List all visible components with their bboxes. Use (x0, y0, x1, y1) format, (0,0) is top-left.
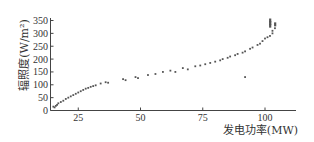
data-point (262, 40, 264, 42)
data-point (90, 86, 92, 88)
data-point (62, 100, 64, 102)
data-point (77, 92, 79, 94)
data-point (264, 38, 266, 40)
data-point (244, 76, 246, 78)
data-point (85, 88, 87, 90)
data-point (80, 90, 82, 92)
data-point (82, 89, 84, 91)
y-axis-label: 辐照度(W/m²) (8, 18, 38, 92)
data-point (227, 57, 229, 59)
x-tick-label: 25 (73, 112, 83, 123)
data-point (214, 61, 216, 63)
data-point (174, 71, 176, 73)
data-point (244, 50, 246, 52)
data-point (269, 19, 271, 23)
data-point (105, 81, 107, 83)
y-tick-label: 0 (43, 105, 48, 116)
data-point (274, 27, 276, 29)
data-point (60, 101, 62, 103)
data-point (199, 65, 201, 67)
data-point (107, 82, 109, 84)
data-point (234, 54, 236, 56)
data-point (92, 85, 94, 87)
data-point (125, 79, 127, 81)
data-points (52, 19, 276, 109)
data-point (182, 67, 184, 69)
data-point (204, 63, 206, 65)
data-point (274, 22, 276, 26)
data-point (249, 48, 251, 50)
data-point (222, 58, 224, 60)
x-axis-label: 发电功率(MW) (223, 121, 298, 137)
data-point (95, 84, 97, 86)
data-point (237, 53, 239, 55)
x-tick-label: 50 (136, 112, 146, 123)
data-point (137, 77, 139, 79)
data-point (87, 87, 89, 89)
data-point (65, 98, 67, 100)
data-point (70, 95, 72, 97)
data-point (229, 56, 231, 58)
data-point (209, 62, 211, 64)
data-point (194, 65, 196, 67)
data-point (162, 71, 164, 73)
data-point (272, 32, 274, 34)
data-point (54, 107, 56, 109)
data-point (267, 36, 269, 38)
data-point (72, 94, 74, 96)
data-point (252, 47, 254, 49)
data-point (257, 44, 259, 46)
data-point (122, 78, 124, 80)
data-point (259, 43, 261, 45)
data-point (135, 76, 137, 78)
data-point (272, 30, 274, 32)
data-point (56, 104, 58, 106)
data-point (242, 52, 244, 54)
data-point (219, 59, 221, 61)
data-point (269, 35, 271, 37)
data-point (155, 73, 157, 75)
data-point (57, 102, 59, 104)
y-tick-label: 50 (38, 92, 48, 103)
data-point (147, 74, 149, 76)
data-point (75, 93, 77, 95)
data-point (169, 70, 171, 72)
y-axis-label-text: 辐照度(W/m²) (15, 19, 31, 90)
x-tick-label: 75 (198, 112, 208, 123)
data-point (67, 97, 69, 99)
data-point (187, 68, 189, 70)
data-point (100, 83, 102, 85)
axes (51, 18, 297, 111)
